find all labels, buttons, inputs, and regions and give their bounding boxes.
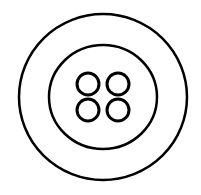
button-illustration: [0, 0, 201, 195]
button-hole-4: [107, 99, 129, 121]
button-hole-3: [77, 99, 99, 121]
sewing-button-icon: [0, 0, 201, 195]
button-holes: [77, 73, 129, 121]
inner-ring-circle: [49, 45, 157, 149]
outer-rim-circle: [19, 14, 187, 180]
button-hole-1: [77, 73, 99, 95]
button-hole-2: [107, 73, 129, 95]
